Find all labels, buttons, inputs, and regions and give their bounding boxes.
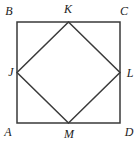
outer-square-shape [17, 22, 120, 123]
vertex-label-b: B [5, 5, 12, 17]
inner-square-shape [17, 22, 120, 123]
vertex-label-d: D [125, 126, 134, 138]
vertex-label-j: J [8, 66, 13, 78]
vertex-label-l: L [127, 67, 134, 79]
vertex-label-k: K [64, 3, 72, 15]
vertex-label-c: C [120, 5, 128, 17]
vertex-label-a: A [4, 126, 11, 138]
geometry-diagram: B K C J L A M D [0, 0, 138, 149]
vertex-label-m: M [64, 128, 74, 140]
